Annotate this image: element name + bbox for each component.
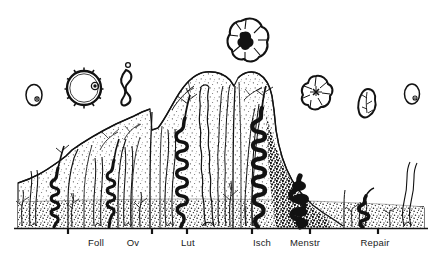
endometrial-cycle-figure: Foll Ov Lut Isch Menstr Repair — [0, 0, 440, 257]
label-foll: Foll — [88, 237, 104, 248]
primordial-follicle-left-icon — [26, 85, 42, 106]
primordial-follicle-right-icon — [405, 84, 420, 104]
oocyte-cumulus — [91, 82, 98, 89]
label-isch: Isch — [253, 237, 271, 248]
figure-canvas: Foll Ov Lut Isch Menstr Repair — [0, 0, 440, 257]
corpus-luteum-peak-icon — [228, 18, 269, 61]
corpus-albicans-icon — [358, 89, 375, 117]
baseline-axis — [14, 228, 428, 234]
label-lut: Lut — [181, 237, 195, 248]
label-menstr: Menstr — [290, 237, 320, 248]
graafian-follicle-icon — [65, 68, 104, 109]
label-ov: Ov — [127, 237, 140, 248]
ruptured-follicle-icon — [121, 63, 131, 106]
corpus-luteum-regressing-icon — [302, 76, 333, 110]
spiral-artery-menstrual — [291, 176, 309, 228]
phase-labels: Foll Ov Lut Isch Menstr Repair — [88, 237, 390, 248]
label-repair: Repair — [360, 237, 389, 248]
